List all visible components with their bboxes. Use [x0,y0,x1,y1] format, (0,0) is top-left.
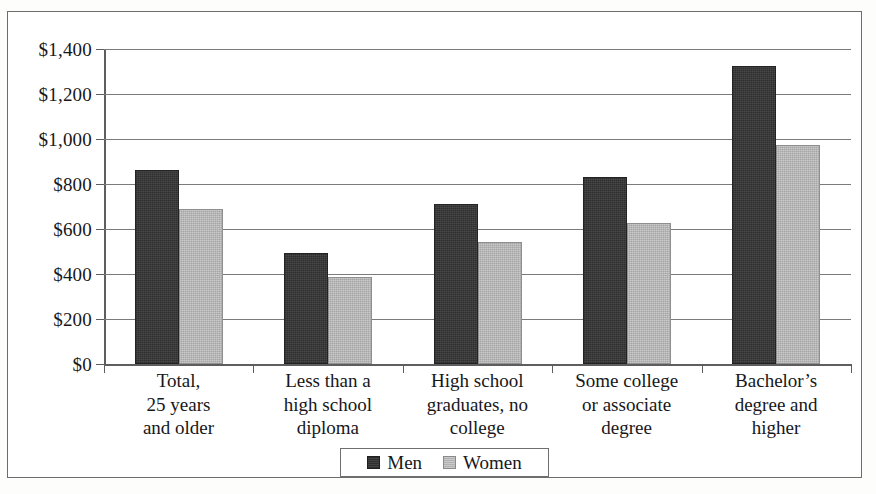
y-axis-tick [96,229,104,230]
category-label-line: college [403,416,552,440]
y-axis-tick [96,49,104,50]
y-axis-tick-label: $1,400 [12,40,92,59]
category-label-line: higher [702,416,851,440]
y-axis-labels: $0$200$400$600$800$1,000$1,200$1,400 [8,49,92,365]
bar-men[interactable] [434,204,478,364]
y-axis-tick-label: $400 [12,265,92,284]
x-axis-line [104,364,851,366]
y-axis-tick-label: $1,200 [12,85,92,104]
category-label-line: Some college [552,369,701,393]
x-axis-tick [851,364,852,373]
x-axis-category-label: High schoolgraduates, nocollege [403,369,552,440]
bar-women[interactable] [478,242,522,364]
category-label-line: 25 years [104,393,253,417]
chart-legend: MenWomen [340,448,549,477]
x-axis-category-label: Some collegeor associatedegree [552,369,701,440]
y-axis-tick [96,364,104,365]
category-label-line: diploma [253,416,402,440]
bar-group [135,49,223,364]
category-label-line: high school [253,393,402,417]
y-axis-tick [96,274,104,275]
bar-women[interactable] [179,209,223,364]
legend-swatch-women-icon [443,456,456,469]
x-axis-category-labels: Total,25 yearsand olderLess than ahigh s… [104,369,851,444]
legend-item-women[interactable]: Women [443,453,522,472]
bar-group [284,49,372,364]
bar-women[interactable] [627,223,671,364]
x-axis-category-label: Total,25 yearsand older [104,369,253,440]
bar-men[interactable] [135,170,179,364]
category-label-line: or associate [552,393,701,417]
x-axis-category-label: Less than ahigh schooldiploma [253,369,402,440]
y-axis-tick [96,139,104,140]
y-axis-tick [96,184,104,185]
y-axis-tick-label: $1,000 [12,130,92,149]
category-label-line: graduates, no [403,393,552,417]
bar-men[interactable] [284,253,328,364]
y-axis-tick-label: $600 [12,220,92,239]
bar-women[interactable] [776,145,820,364]
y-axis-tick-label: $800 [12,175,92,194]
bar-men[interactable] [583,177,627,364]
figure-container: $0$200$400$600$800$1,000$1,200$1,400 Tot… [0,0,876,494]
category-label-line: High school [403,369,552,393]
chart-frame: $0$200$400$600$800$1,000$1,200$1,400 Tot… [7,11,862,478]
category-label-line: Less than a [253,369,402,393]
category-label-line: Bachelor’s [702,369,851,393]
category-label-line: degree [552,416,701,440]
bar-group [434,49,522,364]
y-axis-tick-label: $0 [12,355,92,374]
legend-item-men[interactable]: Men [367,453,422,472]
x-axis-category-label: Bachelor’sdegree andhigher [702,369,851,440]
category-label-line: and older [104,416,253,440]
bar-group [583,49,671,364]
bar-women[interactable] [328,277,372,364]
y-axis-line [104,49,106,365]
legend-label: Men [387,453,422,472]
y-axis-tick [96,319,104,320]
legend-label: Women [463,453,522,472]
category-label-line: degree and [702,393,851,417]
bar-group [732,49,820,364]
plot-area [104,49,851,364]
bar-men[interactable] [732,66,776,364]
legend-swatch-men-icon [367,456,380,469]
category-label-line: Total, [104,369,253,393]
y-axis-tick [96,94,104,95]
y-axis-tick-label: $200 [12,310,92,329]
